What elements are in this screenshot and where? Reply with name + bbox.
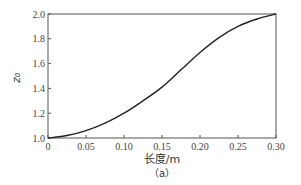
y-tick-label: 1.4 [33,83,46,94]
x-tick-label: 0 [46,141,51,152]
x-tick-label: 0.20 [191,141,209,152]
x-tick-label: 0.25 [229,141,247,152]
y-tick-label: 1.6 [33,58,46,69]
y-tick-label: 2.0 [33,9,46,20]
plot-frame [48,14,276,138]
x-tick-label: 0.30 [267,141,285,152]
data-series [48,14,276,138]
y-axis-label: z₀ [10,72,23,84]
figure-caption: （a） [149,168,175,179]
x-tick-label: 0.05 [77,141,95,152]
line-chart: 1.01.21.41.61.82.0 00.050.100.150.200.25… [0,0,301,185]
x-tick-label: 0.15 [153,141,171,152]
y-tick-label: 1.2 [33,108,46,119]
x-axis-label: 长度/m [144,152,180,166]
series-line [48,14,276,138]
plot-border [48,14,276,138]
x-tick-label: 0.10 [115,141,133,152]
y-tick-label: 1.8 [33,33,46,44]
y-tick-label: 1.0 [33,133,46,144]
